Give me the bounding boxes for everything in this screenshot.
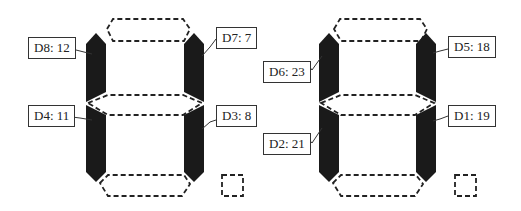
label-d1: D1: 19 [448,105,496,127]
label-d2: D2: 21 [263,133,311,155]
segment-middle-unlit [88,95,202,115]
leader-line-d7 [202,39,216,56]
seven-segment-diagram [0,0,521,211]
label-d4: D4: 11 [28,105,75,127]
segment-top-unlit [334,19,427,41]
segment-middle-unlit [321,95,434,115]
label-d3: D3: 8 [216,105,257,127]
segment-lower-right-lit [416,105,436,182]
segment-upper-left-lit [86,33,106,102]
decimal-point-unlit [222,175,243,196]
segment-upper-right-lit [416,33,436,102]
segment-lower-left-lit [319,105,339,182]
label-d7: D7: 7 [216,27,257,49]
segment-lower-right-lit [184,105,204,182]
decimal-point-unlit [455,175,476,196]
segment-bottom-unlit [100,175,190,196]
label-d8: D8: 12 [28,37,76,59]
segment-upper-left-lit [319,33,339,102]
leader-line-d3 [202,120,216,129]
label-d5: D5: 18 [448,36,496,58]
segment-bottom-unlit [333,175,423,196]
segment-lower-left-lit [86,105,106,182]
segment-upper-right-lit [184,33,204,102]
label-d6: D6: 23 [263,61,311,83]
segment-top-unlit [107,19,190,41]
